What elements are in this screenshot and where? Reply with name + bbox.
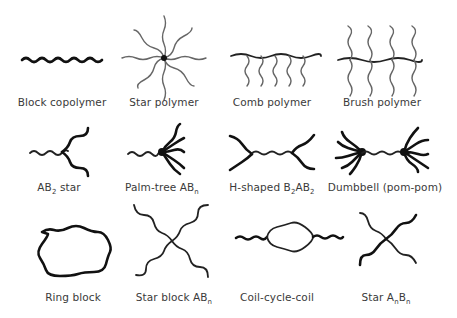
star-polymer-icon xyxy=(122,16,206,100)
star-anbn-icon xyxy=(360,213,416,265)
brush-polymer-icon xyxy=(338,26,422,96)
label-star-block-abn: Star block ABn xyxy=(136,291,212,306)
label-star-anbn: Star AnBn xyxy=(361,291,410,306)
label-brush-polymer: Brush polymer xyxy=(343,96,421,108)
ab2-star-icon xyxy=(30,128,88,176)
label-dumbbell-pom-pom: Dumbbell (pom-pom) xyxy=(328,181,442,193)
label-star-polymer: Star polymer xyxy=(129,96,198,108)
label-block-copolymer: Block copolymer xyxy=(18,96,107,108)
dumbbell-pom-pom-icon xyxy=(336,128,428,174)
palm-tree-abn-icon xyxy=(128,124,184,174)
label-h-shaped-b2ab2: H-shaped B2AB2 xyxy=(229,181,314,196)
block-copolymer-icon xyxy=(22,58,102,62)
label-comb-polymer: Comb polymer xyxy=(233,96,311,108)
polymer-architecture-diagram xyxy=(0,0,457,318)
label-coil-cycle-coil: Coil-cycle-coil xyxy=(240,291,314,303)
star-block-abn-icon xyxy=(134,205,208,277)
label-ring-block: Ring block xyxy=(45,291,101,303)
label-palm-tree-abn: Palm-tree ABn xyxy=(125,181,199,196)
h-shaped-b2ab2-icon xyxy=(230,135,314,170)
coil-cycle-coil-icon xyxy=(236,223,343,252)
label-ab2-star: AB2 star xyxy=(37,181,80,196)
ring-block-icon xyxy=(38,226,110,276)
comb-polymer-icon xyxy=(231,54,321,86)
